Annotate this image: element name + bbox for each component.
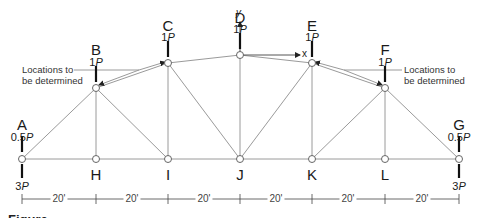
node-label-f: F bbox=[380, 42, 389, 57]
node-label-b: B bbox=[91, 42, 101, 57]
dimension-label: 20' bbox=[267, 194, 284, 204]
left-annotation: Locations to be determined bbox=[22, 64, 83, 86]
node-label-g: G bbox=[453, 117, 465, 132]
dimension-label: 20' bbox=[195, 194, 212, 204]
node-label-j: J bbox=[236, 167, 244, 182]
x-axis-label: x bbox=[302, 49, 307, 59]
node-label-i: I bbox=[166, 167, 170, 182]
truss-members bbox=[22, 55, 459, 159]
load-g-bottom: 3P bbox=[452, 181, 465, 192]
node-label-l: L bbox=[381, 167, 389, 182]
load-a-top: 0.5P bbox=[11, 132, 34, 143]
load-e: 1P bbox=[305, 32, 318, 43]
figure-caption: Figure bbox=[8, 212, 48, 218]
node-label-h: H bbox=[91, 167, 102, 182]
coordinate-axes bbox=[240, 22, 300, 55]
load-f: 1P bbox=[378, 57, 391, 68]
node-label-a: A bbox=[17, 117, 27, 132]
dimension-label: 20' bbox=[123, 194, 140, 204]
dimension-line bbox=[22, 194, 459, 204]
load-d: 1P bbox=[233, 24, 246, 35]
load-a-bottom: 3P bbox=[15, 181, 28, 192]
load-b: 1P bbox=[89, 57, 102, 68]
leader-lines bbox=[74, 62, 402, 85]
load-c: 1P bbox=[161, 32, 174, 43]
y-axis-label: y bbox=[236, 8, 241, 18]
node-label-k: K bbox=[307, 167, 317, 182]
dimension-label: 20' bbox=[50, 194, 67, 204]
dimension-label: 20' bbox=[413, 194, 430, 204]
dimension-label: 20' bbox=[339, 194, 356, 204]
load-g-top: 0.5P bbox=[448, 132, 471, 143]
right-annotation: Locations to be determined bbox=[404, 64, 465, 86]
